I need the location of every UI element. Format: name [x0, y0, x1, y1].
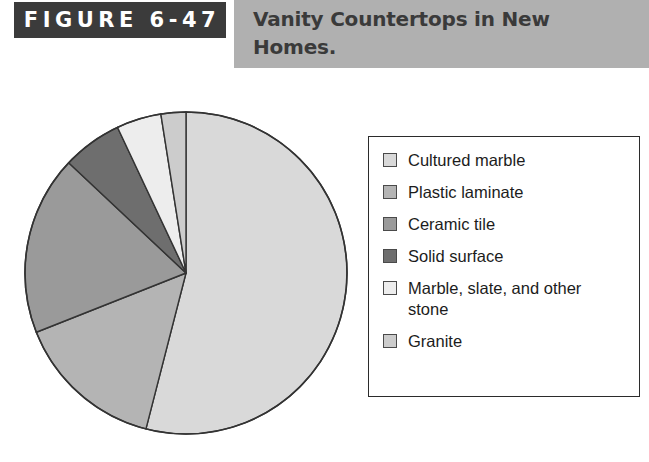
legend-swatch-solid-surface	[383, 249, 397, 263]
legend-label-solid-surface: Solid surface	[408, 246, 503, 267]
legend-item-plastic-laminate: Plastic laminate	[383, 182, 639, 203]
pie-chart	[24, 111, 348, 435]
legend-label-ceramic-tile: Ceramic tile	[408, 214, 495, 235]
pie-chart-svg	[24, 111, 348, 435]
legend-swatch-ceramic-tile	[383, 217, 397, 231]
legend-swatch-cultured-marble	[383, 153, 397, 167]
pie-slice-group	[25, 112, 347, 434]
figure-header: FIGURE 6-47 Vanity Countertops in New Ho…	[0, 0, 649, 70]
legend-item-granite: Granite	[383, 331, 639, 352]
legend-label-marble-slate-stone: Marble, slate, and other stone	[408, 278, 623, 320]
chart-legend: Cultured marble Plastic laminate Ceramic…	[368, 136, 640, 397]
figure-number-tag: FIGURE 6-47	[14, 2, 226, 38]
legend-item-marble-slate-stone: Marble, slate, and other stone	[383, 278, 639, 320]
legend-item-solid-surface: Solid surface	[383, 246, 639, 267]
legend-label-granite: Granite	[408, 331, 462, 352]
legend-label-plastic-laminate: Plastic laminate	[408, 182, 524, 203]
legend-swatch-marble-slate-stone	[383, 281, 397, 295]
figure-title: Vanity Countertops in New Homes.	[253, 5, 583, 61]
legend-item-cultured-marble: Cultured marble	[383, 150, 639, 171]
legend-item-ceramic-tile: Ceramic tile	[383, 214, 639, 235]
legend-label-cultured-marble: Cultured marble	[408, 150, 525, 171]
legend-swatch-plastic-laminate	[383, 185, 397, 199]
legend-swatch-granite	[383, 334, 397, 348]
